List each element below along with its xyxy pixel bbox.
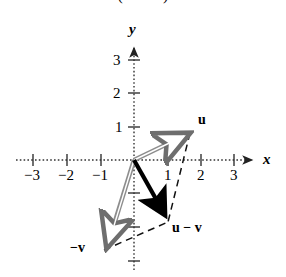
vector-negative-v-inner: [109, 160, 134, 242]
vector-label-u-minus-v: u − v: [172, 221, 202, 235]
y-tick-label-3: 3: [113, 53, 121, 68]
y-tick-label-1: 1: [115, 120, 123, 135]
vector-diagram-figure: ( a − b ): [0, 0, 286, 277]
plot-canvas: [0, 0, 286, 277]
y-tick-label-2: 2: [113, 86, 121, 101]
x-tick-label-1: 1: [164, 168, 172, 183]
vector-u-inner: [134, 136, 184, 160]
x-tick-label-3: 3: [230, 168, 238, 183]
y-axis-label: y: [129, 22, 136, 37]
vector-label-negative-v: −v: [70, 241, 85, 255]
x-tick-label--2: −2: [58, 168, 74, 183]
vector-label-u: u: [198, 113, 206, 127]
x-axis-label: x: [263, 152, 271, 167]
x-tick-label--1: −1: [92, 168, 108, 183]
x-tick-label-2: 2: [197, 168, 205, 183]
x-tick-label--3: −3: [24, 168, 40, 183]
vector-u-minus-v: [134, 160, 165, 215]
